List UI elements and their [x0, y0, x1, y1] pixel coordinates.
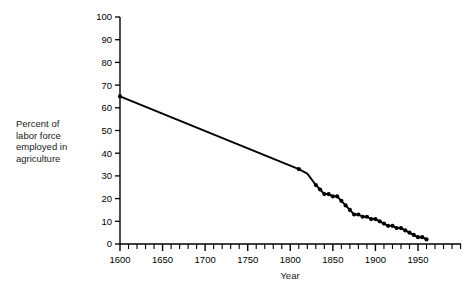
svg-text:0: 0 — [107, 238, 112, 249]
x-axis-title: Year — [240, 270, 340, 281]
svg-text:1950: 1950 — [407, 254, 428, 265]
svg-text:1850: 1850 — [322, 254, 343, 265]
svg-text:1600: 1600 — [109, 254, 130, 265]
svg-text:10: 10 — [101, 216, 112, 227]
svg-text:1750: 1750 — [237, 254, 258, 265]
svg-text:30: 30 — [101, 170, 112, 181]
svg-text:40: 40 — [101, 148, 112, 159]
svg-text:1900: 1900 — [365, 254, 386, 265]
svg-text:20: 20 — [101, 193, 112, 204]
svg-text:1650: 1650 — [152, 254, 173, 265]
svg-text:80: 80 — [101, 57, 112, 68]
y-axis-ticks: 0102030405060708090100 — [96, 11, 120, 249]
y-axis-title: Percent of labor force employed in agric… — [16, 118, 96, 164]
svg-text:1700: 1700 — [195, 254, 216, 265]
svg-text:50: 50 — [101, 125, 112, 136]
svg-text:100: 100 — [96, 11, 112, 22]
chart-figure: Percent of labor force employed in agric… — [0, 0, 476, 299]
svg-text:60: 60 — [101, 102, 112, 113]
data-series-markers — [118, 94, 429, 241]
x-axis-ticks: 16001650170017501800185019001950 — [109, 244, 460, 265]
svg-text:70: 70 — [101, 80, 112, 91]
svg-text:90: 90 — [101, 34, 112, 45]
data-series-line — [120, 96, 427, 239]
svg-text:1800: 1800 — [280, 254, 301, 265]
